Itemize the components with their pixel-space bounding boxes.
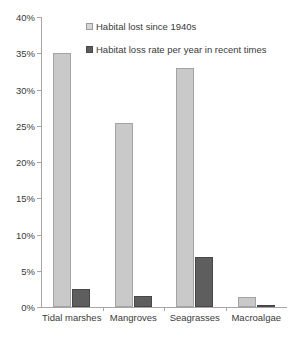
x-axis-tick bbox=[164, 307, 165, 311]
bar bbox=[195, 257, 213, 307]
x-axis-category-label: Mangroves bbox=[110, 312, 157, 323]
bar bbox=[134, 296, 152, 307]
bar bbox=[238, 297, 256, 307]
bar bbox=[176, 68, 194, 307]
y-axis-line bbox=[41, 17, 42, 308]
bar bbox=[72, 289, 90, 307]
y-axis-tick-label: 25% bbox=[16, 120, 35, 131]
y-axis-tick-label: 30% bbox=[16, 84, 35, 95]
bar-chart: Habital lost since 1940s Habitat loss ra… bbox=[0, 0, 293, 339]
y-axis-tick-label: 0% bbox=[21, 302, 35, 313]
y-axis-tick bbox=[37, 235, 41, 236]
x-axis-category-label: Macroalgae bbox=[231, 312, 281, 323]
y-axis-tick bbox=[37, 17, 41, 18]
y-axis-tick bbox=[37, 126, 41, 127]
y-axis-tick bbox=[37, 90, 41, 91]
y-axis-tick bbox=[37, 198, 41, 199]
bar bbox=[53, 53, 71, 307]
plot-area: 0%5%10%15%20%25%30%35%40% bbox=[41, 17, 287, 307]
y-axis-tick-label: 20% bbox=[16, 157, 35, 168]
x-axis-category-label: Tidal marshes bbox=[42, 312, 101, 323]
y-axis-tick-label: 10% bbox=[16, 229, 35, 240]
y-axis-tick-label: 15% bbox=[16, 193, 35, 204]
x-axis-tick bbox=[103, 307, 104, 311]
y-axis-tick-label: 35% bbox=[16, 48, 35, 59]
y-axis-tick bbox=[37, 162, 41, 163]
x-axis-category-label: Seagrasses bbox=[170, 312, 220, 323]
y-axis-tick bbox=[37, 271, 41, 272]
y-axis-tick-label: 5% bbox=[21, 265, 35, 276]
x-axis-tick bbox=[226, 307, 227, 311]
bar bbox=[257, 305, 275, 307]
y-axis-tick-label: 40% bbox=[16, 12, 35, 23]
y-axis-tick bbox=[37, 53, 41, 54]
y-axis-tick bbox=[37, 307, 41, 308]
bar bbox=[115, 123, 133, 307]
